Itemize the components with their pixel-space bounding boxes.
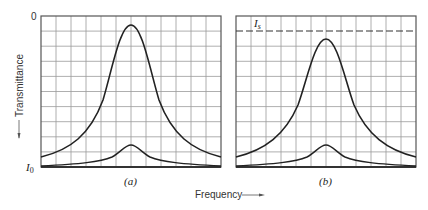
y-axis-label-group: Transmittance — [14, 54, 25, 138]
y-axis-arrowhead-icon — [18, 133, 21, 139]
figure-canvas: 0 I0 Transmittance (a) (b) Is Frequency — [0, 0, 428, 210]
x-axis-label: Frequency — [195, 189, 242, 200]
panel-b-dashed-line-label: Is — [253, 17, 261, 31]
y-axis-label: Transmittance — [14, 54, 25, 117]
panel-a-caption: (a) — [124, 175, 137, 188]
y-bottom-label: I0 — [25, 161, 34, 175]
y-top-label: 0 — [31, 11, 37, 22]
x-axis-arrowhead-icon — [259, 194, 265, 197]
panel-b-caption: (b) — [319, 175, 332, 188]
